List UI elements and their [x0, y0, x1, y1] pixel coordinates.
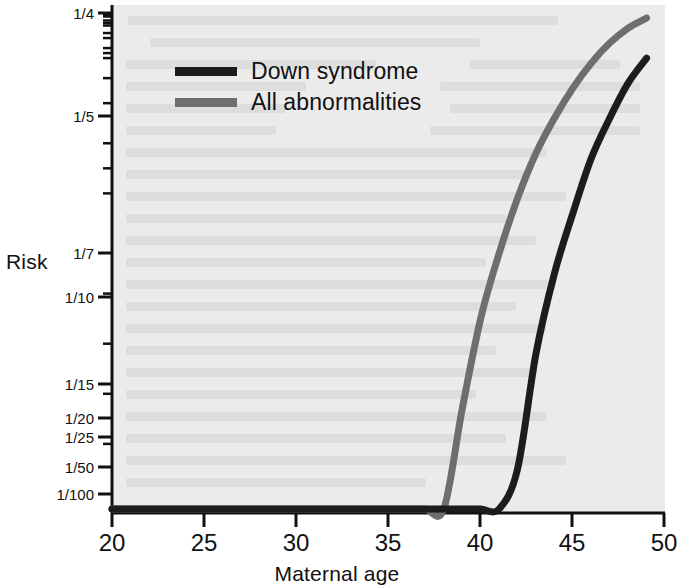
legend-swatch-down-syndrome — [175, 67, 237, 76]
x-axis-major-ticks — [112, 513, 664, 527]
y-tick-label-1-15: 1/15 — [65, 376, 94, 393]
y-tick-label-1-50: 1/50 — [65, 459, 94, 476]
y-tick-label-1-7: 1/7 — [73, 245, 94, 262]
legend-swatch-all-abnormalities — [175, 98, 237, 107]
chart-legend: Down syndrome All abnormalities — [175, 56, 421, 118]
x-tick-label-30: 30 — [283, 529, 310, 557]
x-axis-title: Maternal age — [0, 562, 674, 586]
y-tick-label-1-10: 1/10 — [65, 289, 94, 306]
y-tick-label-1-20: 1/20 — [65, 410, 94, 427]
x-tick-label-45: 45 — [559, 529, 586, 557]
legend-item-down-syndrome: Down syndrome — [175, 56, 421, 87]
x-tick-label-50: 50 — [651, 529, 677, 557]
legend-label-down-syndrome: Down syndrome — [251, 58, 418, 85]
legend-label-all-abnormalities: All abnormalities — [251, 89, 421, 116]
y-axis-title: Risk — [6, 250, 48, 274]
x-tick-label-20: 20 — [99, 529, 126, 557]
y-tick-label-1-5: 1/5 — [73, 108, 94, 125]
y-tick-label-1-100: 1/100 — [56, 486, 94, 503]
x-tick-label-35: 35 — [375, 529, 402, 557]
x-tick-label-40: 40 — [467, 529, 494, 557]
y-axis-major-ticks — [98, 13, 112, 494]
x-tick-label-25: 25 — [191, 529, 218, 557]
y-tick-label-1-4: 1/4 — [73, 5, 94, 22]
y-tick-label-1-25: 1/25 — [65, 429, 94, 446]
legend-item-all-abnormalities: All abnormalities — [175, 87, 421, 118]
